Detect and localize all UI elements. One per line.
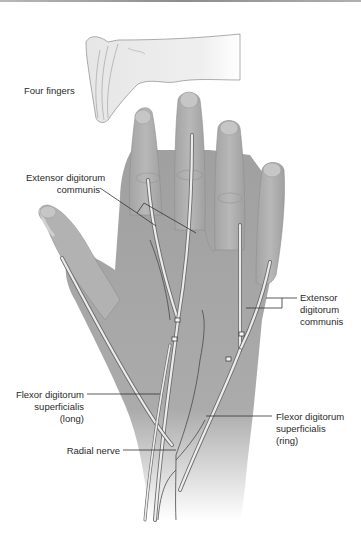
label-radial-nerve: Radial nerve (40, 445, 120, 457)
label-flexor-digitorum-superficialis-long: Flexor digitorum superficialis (long) (2, 389, 84, 425)
label-extensor-digitorum-communis-left: Extensor digitorum communis (26, 172, 100, 196)
label-extensor-digitorum-communis-right: Extensor digitorum communis (300, 292, 343, 328)
label-flexor-digitorum-superficialis-ring: Flexor digitorum superficialis (ring) (276, 411, 344, 447)
inset-side-hand (86, 34, 240, 122)
label-four-fingers: Four fingers (24, 85, 75, 97)
